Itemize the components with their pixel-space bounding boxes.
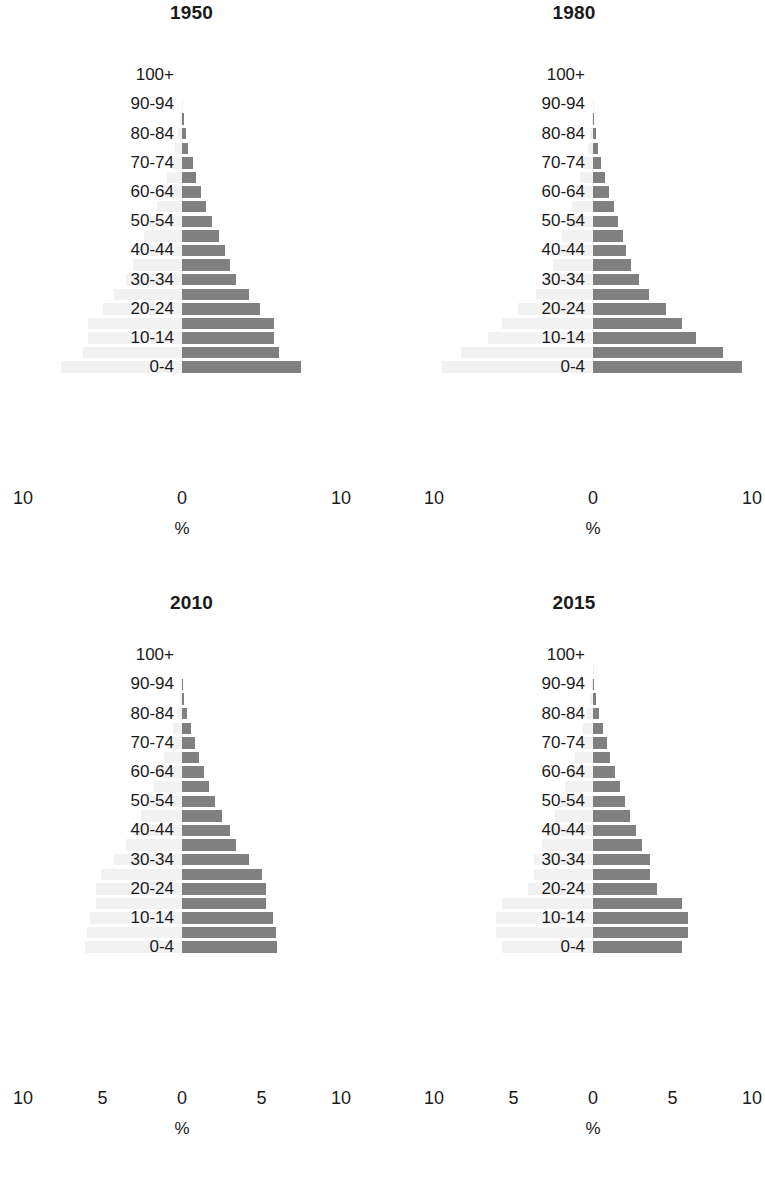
age-label-0-4: 0-4	[383, 357, 585, 377]
pyramid-row: 10-14	[383, 331, 765, 346]
panel-1950: 1950100+90-9480-8470-7460-6450-5440-4430…	[0, 0, 383, 590]
pyramid-row: 100+	[383, 68, 765, 83]
bar-female-10-14	[593, 912, 688, 923]
bar-female-15-19	[182, 898, 266, 909]
pyramid-row: 30-34	[0, 852, 383, 867]
bar-female-45-49	[182, 230, 219, 241]
pyramid-row: 40-44	[0, 243, 383, 258]
age-label-20-24: 20-24	[0, 299, 174, 319]
bar-female-55-59	[593, 781, 620, 792]
bar-female-75-79	[182, 723, 191, 734]
bar-female-25-29	[182, 289, 249, 300]
population-pyramid-grid: 1950100+90-9480-8470-7460-6450-5440-4430…	[0, 0, 765, 1180]
bar-female-10-14	[182, 332, 274, 343]
pyramid-row: 90-94	[0, 97, 383, 112]
age-label-0-4: 0-4	[0, 357, 174, 377]
bar-female-30-34	[593, 274, 639, 285]
x-tick-5-3: 5	[256, 1088, 266, 1109]
age-label-70-74: 70-74	[383, 733, 585, 753]
bar-female-50-54	[593, 216, 618, 227]
age-label-20-24: 20-24	[383, 299, 585, 319]
bar-female-50-54	[182, 216, 212, 227]
bar-female-70-74	[593, 157, 601, 168]
bar-male-80-84	[178, 128, 182, 139]
bar-male-80-84	[177, 708, 182, 719]
age-label-60-64: 60-64	[0, 182, 174, 202]
x-tick-10-0: 10	[13, 1088, 33, 1109]
axis-unit-label: %	[585, 519, 600, 539]
age-label-80-84: 80-84	[0, 124, 174, 144]
pyramid-row: 80-84	[383, 706, 765, 721]
pyramid-row: 0-4	[0, 360, 383, 375]
age-label-80-84: 80-84	[383, 124, 585, 144]
bar-female-90-94	[182, 679, 183, 690]
bar-male-90-94	[592, 679, 593, 690]
panel-title-1980: 1980	[383, 2, 765, 24]
x-tick-0-2: 0	[588, 1088, 598, 1109]
bar-female-45-49	[182, 810, 222, 821]
pyramid-row: 100+	[0, 68, 383, 83]
age-label-70-74: 70-74	[0, 733, 174, 753]
age-label-30-34: 30-34	[383, 850, 585, 870]
age-label-100+: 100+	[383, 65, 585, 85]
age-label-70-74: 70-74	[0, 153, 174, 173]
bar-female-5-9	[593, 927, 688, 938]
axis-unit-label: %	[585, 1119, 600, 1139]
x-tick-0-1: 0	[588, 488, 598, 509]
bar-female-30-34	[593, 854, 650, 865]
age-label-0-4: 0-4	[383, 937, 585, 957]
bar-female-80-84	[182, 708, 187, 719]
panel-2015: 2015100+90-9480-8470-7460-6450-5440-4430…	[383, 590, 765, 1180]
bar-female-85-89	[182, 693, 184, 704]
bar-female-75-79	[593, 723, 603, 734]
age-label-50-54: 50-54	[383, 211, 585, 231]
pyramid-row: 60-64	[383, 765, 765, 780]
pyramid-row: 100+	[383, 648, 765, 663]
bar-female-35-39	[182, 259, 230, 270]
bar-female-35-39	[182, 839, 236, 850]
pyramid-row: 80-84	[383, 126, 765, 141]
axis-unit-label: %	[174, 1119, 189, 1139]
pyramid-row: 30-34	[383, 272, 765, 287]
bar-female-70-74	[182, 157, 193, 168]
bar-female-25-29	[593, 869, 650, 880]
bar-male-85-89	[590, 693, 593, 704]
bar-female-25-29	[593, 289, 649, 300]
pyramid-row: 60-64	[0, 765, 383, 780]
age-label-50-54: 50-54	[383, 791, 585, 811]
pyramid-row: 90-94	[383, 97, 765, 112]
pyramid-row: 90-94	[383, 677, 765, 692]
bar-female-0-4	[182, 941, 277, 952]
bar-female-65-69	[593, 172, 605, 183]
pyramid-row: 60-64	[383, 185, 765, 200]
x-tick-5-3: 5	[667, 1088, 677, 1109]
age-label-100+: 100+	[383, 645, 585, 665]
age-label-20-24: 20-24	[0, 879, 174, 899]
pyramid-row: 40-44	[0, 823, 383, 838]
pyramid-row: 50-54	[383, 794, 765, 809]
age-label-40-44: 40-44	[383, 820, 585, 840]
bar-female-5-9	[593, 347, 723, 358]
pyramid-row: 0-4	[383, 360, 765, 375]
pyramid-row: 80-84	[0, 706, 383, 721]
bar-female-80-84	[182, 128, 186, 139]
bar-female-15-19	[593, 318, 682, 329]
pyramid-row: 0-4	[0, 940, 383, 955]
bar-female-65-69	[182, 752, 199, 763]
age-label-10-14: 10-14	[0, 328, 174, 348]
pyramid-row: 10-14	[0, 911, 383, 926]
age-label-10-14: 10-14	[0, 908, 174, 928]
bar-male-80-84	[590, 128, 593, 139]
pyramid-row: 50-54	[0, 214, 383, 229]
bar-female-15-19	[182, 318, 274, 329]
bar-female-20-24	[593, 303, 666, 314]
pyramid-row: 10-14	[0, 331, 383, 346]
pyramid-row: 10-14	[383, 911, 765, 926]
panel-1980: 1980100+90-9480-8470-7460-6450-5440-4430…	[383, 0, 765, 590]
pyramid-row: 30-34	[383, 852, 765, 867]
pyramid-row: 80-84	[0, 126, 383, 141]
pyramid-row: 20-24	[383, 302, 765, 317]
age-label-60-64: 60-64	[383, 762, 585, 782]
age-label-30-34: 30-34	[383, 270, 585, 290]
bar-female-65-69	[182, 172, 196, 183]
